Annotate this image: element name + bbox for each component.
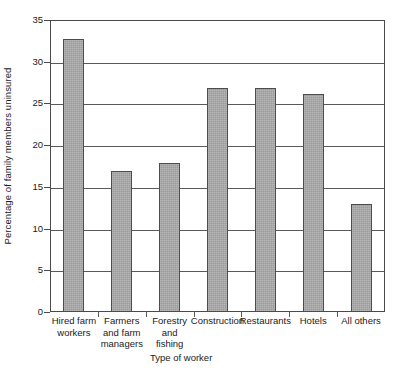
bar (159, 163, 180, 312)
y-axis-title: Percentage of family members uninsured (1, 0, 15, 312)
x-tick-label-line: All others (329, 315, 393, 327)
y-tick-label: 10 (17, 224, 43, 234)
y-tick-label: 5 (17, 265, 43, 275)
bar (255, 88, 276, 312)
y-tick-label: 25 (17, 98, 43, 108)
bar (351, 204, 372, 312)
bar (63, 39, 84, 312)
x-tick-label: All others (329, 315, 393, 327)
bar-chart-figure: Percentage of family members uninsured 0… (0, 0, 402, 378)
x-tick-label-line: fishing (138, 338, 202, 350)
y-tick-label: 35 (17, 15, 43, 25)
y-tick-label: 30 (17, 57, 43, 67)
bars-layer (50, 20, 385, 312)
y-tick-label: 15 (17, 182, 43, 192)
y-tick-label: 0 (17, 307, 43, 317)
x-tick-label-line: and (138, 327, 202, 339)
x-axis-title: Type of worker (150, 352, 330, 363)
y-tick-mark (44, 312, 50, 313)
bar (303, 94, 324, 312)
bar (111, 171, 132, 312)
y-tick-label: 20 (17, 140, 43, 150)
bar (207, 88, 228, 312)
